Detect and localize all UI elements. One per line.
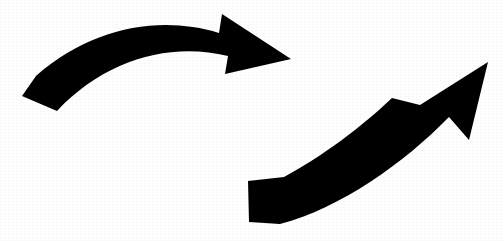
- arrows-illustration: [0, 0, 504, 241]
- image-canvas: [0, 0, 504, 241]
